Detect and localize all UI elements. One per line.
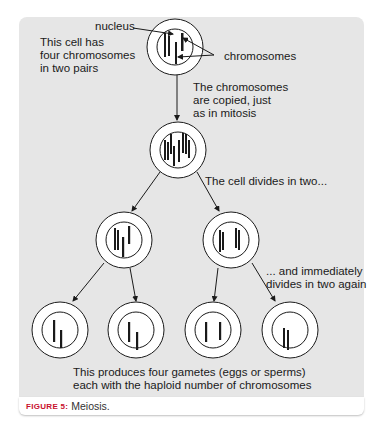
- daughter-cell-left: [96, 212, 152, 268]
- nucleus-label: nucleus: [95, 20, 135, 33]
- result-label: This produces four gametes (eggs or sper…: [73, 366, 311, 392]
- chromosomes-label: chromosomes: [224, 50, 296, 63]
- daughter-cell-right: [203, 212, 259, 268]
- divide-arrow-3: [214, 268, 218, 301]
- cell-intro-label: This cell has four chromosomes in two pa…: [40, 36, 135, 75]
- divide-arrow-left: [132, 172, 160, 211]
- parent-cell: [147, 19, 203, 75]
- divide-arrow-2: [130, 268, 136, 301]
- gamete-2: [108, 302, 164, 358]
- copied-label: The chromosomes are copied, just as in m…: [193, 81, 288, 120]
- divides-again-label: ... and immediately divides in two again: [266, 265, 366, 291]
- copied-cell: [150, 122, 206, 178]
- divides-label: The cell divides in two...: [205, 175, 327, 188]
- figure-caption: FIGURE 5: Meiosis.: [19, 397, 364, 415]
- gamete-3: [185, 302, 241, 358]
- caption-text: Meiosis.: [71, 400, 110, 412]
- caption-label: FIGURE 5:: [26, 402, 68, 411]
- divide-arrow-1: [73, 263, 104, 301]
- gamete-4: [262, 302, 318, 358]
- gamete-1: [32, 302, 88, 358]
